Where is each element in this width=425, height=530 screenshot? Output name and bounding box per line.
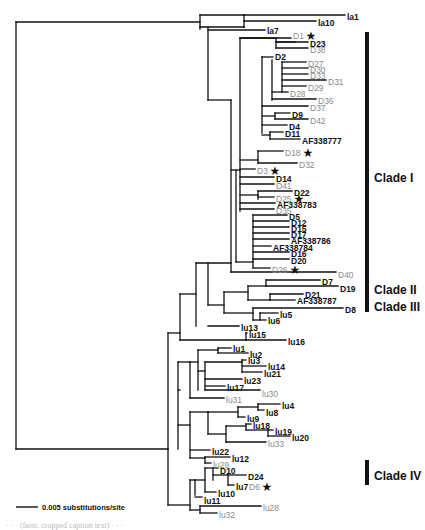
leaf-label: D38 <box>310 45 326 55</box>
leaf-label: lu32 <box>219 510 235 520</box>
leaf-label: lu3 <box>248 356 261 366</box>
clade-label: Clade II <box>374 283 417 297</box>
leaf-label: lu11 <box>204 496 221 506</box>
leaf-label: lu33 <box>268 439 284 449</box>
star-icon: ★ <box>303 146 314 160</box>
leaf-label: AF338787 <box>297 296 337 306</box>
leaf-label: lu28 <box>263 503 279 513</box>
clade-label: Clade I <box>374 171 413 185</box>
leaf-label: D11 <box>285 129 300 139</box>
leaf-label: D28 <box>290 89 306 99</box>
leaf-label: lu20 <box>292 433 309 443</box>
leaf-label: lu1 <box>233 344 246 354</box>
phylogenetic-tree-figure: Clade IClade IIClade IIIClade IV la1la10… <box>0 0 425 530</box>
leaf-label: D26 <box>272 265 288 275</box>
clade-bars: Clade IClade IIClade IIIClade IV <box>365 32 421 485</box>
leaf-label: D2 <box>275 52 286 62</box>
leaf-label: D37 <box>310 103 326 113</box>
caption-fragment: · · · (faint, cropped caption text) · · … <box>6 521 123 530</box>
leaf-label: lu8 <box>266 408 279 418</box>
leaf-label: AF338777 <box>302 136 342 146</box>
leaf-label: lu6 <box>268 316 281 326</box>
clade-bar <box>365 282 369 300</box>
leaf-label: lu16 <box>288 337 305 347</box>
clade-label: Clade III <box>374 300 420 314</box>
leaf-label: lu10 <box>218 489 235 499</box>
scale-bar: 0.005 substitutions/site <box>16 503 125 512</box>
clade-bar <box>365 302 369 312</box>
star-icon: ★ <box>290 263 301 277</box>
leaf-label: lu7 <box>236 482 249 492</box>
clade-bar <box>365 32 369 312</box>
leaf-label: D42 <box>310 116 326 126</box>
leaf-label: lu4 <box>282 401 295 411</box>
leaf-label: la10 <box>318 18 335 28</box>
leaf-label: lu22 <box>212 447 229 457</box>
leaf-label: lu12 <box>232 454 249 464</box>
leaf-label: lu5 <box>280 310 293 320</box>
leaf-label: D31 <box>328 77 344 87</box>
leaf-label: lu23 <box>244 376 261 386</box>
leaf-label: D32 <box>299 160 315 170</box>
clade-bar <box>365 460 369 485</box>
leaf-label: D7 <box>322 277 333 287</box>
clade-label: Clade IV <box>374 469 421 483</box>
tree-svg: Clade IClade IIClade IIIClade IV la1la10… <box>0 0 425 530</box>
star-icon: ★ <box>261 480 272 494</box>
leaf-label: la7 <box>267 26 279 36</box>
leaf-label: D1 <box>293 31 304 41</box>
leaf-label: D33 <box>310 71 326 81</box>
leaf-label: D8 <box>345 305 356 315</box>
leaf-label: D40 <box>338 270 354 280</box>
leaf-label: D41 <box>276 181 292 191</box>
leaf-label: D10 <box>220 466 236 476</box>
leaf-label: lu31 <box>226 395 242 405</box>
leaf-label: lu19 <box>275 427 292 437</box>
leaf-label: la1 <box>347 12 359 22</box>
leaf-label: lu15 <box>249 330 266 340</box>
leaf-label: D9 <box>292 110 303 120</box>
leaf-label: lu30 <box>262 389 278 399</box>
scale-bar-label: 0.005 substitutions/site <box>42 503 125 512</box>
leaf-label: D6 <box>249 482 260 492</box>
leaf-label: D3 <box>257 166 268 176</box>
leaf-label: D29 <box>308 83 324 93</box>
leaf-label: D18 <box>285 148 301 158</box>
leaf-label: lu21 <box>264 369 281 379</box>
leaf-label: lu18 <box>253 421 270 431</box>
leaf-label: D19 <box>340 284 356 294</box>
leaf-label: lu17 <box>227 383 244 393</box>
